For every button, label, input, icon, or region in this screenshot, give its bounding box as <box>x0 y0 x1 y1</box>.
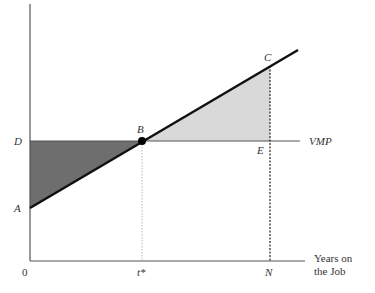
label-vmp: VMP <box>309 136 332 147</box>
label-c: C <box>264 52 271 63</box>
label-d: D <box>14 136 22 147</box>
label-e: E <box>257 145 264 156</box>
point-b-marker <box>138 137 146 145</box>
label-a: A <box>14 203 21 214</box>
x-axis-label-line2: the Job <box>314 266 345 277</box>
label-tstar: t* <box>137 267 146 278</box>
label-n: N <box>265 267 272 278</box>
x-axis-label-line1: Years on <box>314 253 352 264</box>
label-origin: 0 <box>22 267 28 278</box>
label-b: B <box>137 124 144 135</box>
